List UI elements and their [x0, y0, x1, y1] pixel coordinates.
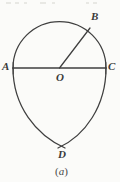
figure-caption: (a)	[55, 166, 68, 177]
point-label-d: D	[58, 149, 66, 160]
caption-close-paren: )	[64, 165, 68, 177]
point-label-o: O	[56, 72, 64, 83]
figure-container: A B C O D (a)	[0, 0, 120, 182]
point-label-c: C	[108, 61, 115, 72]
radius-segment-ob	[60, 28, 91, 68]
point-label-b: B	[91, 11, 98, 22]
lower-right-arc-cd	[58, 68, 106, 148]
semicircle-arc-abc	[13, 22, 106, 69]
point-label-a: A	[2, 61, 9, 72]
